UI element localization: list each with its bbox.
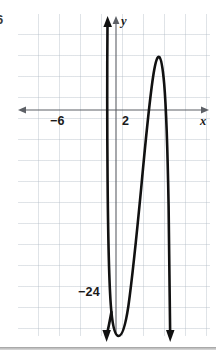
x-axis (18, 107, 209, 114)
cubic-curve (102, 16, 174, 342)
x-axis-arrow-right-icon (201, 107, 209, 114)
x-axis-name: x (200, 114, 206, 129)
figure-page: 6 −6 2 −24 x y (0, 0, 216, 358)
graph-plot (0, 0, 216, 358)
y-axis (113, 16, 120, 334)
x-tick-label-two: 2 (122, 114, 129, 128)
page-bottom-rule (0, 347, 216, 350)
y-tick-label-negative-twentyfour: −24 (78, 285, 100, 299)
y-axis-name: y (121, 14, 127, 29)
curve-arrow-down-right-icon (166, 330, 175, 342)
curve-arrow-up-left-icon (103, 16, 112, 27)
y-axis-arrow-up-icon (113, 16, 120, 24)
cubic-path (107, 24, 170, 336)
x-tick-label-negative-six: −6 (50, 114, 65, 128)
x-axis-arrow-left-icon (18, 107, 26, 114)
